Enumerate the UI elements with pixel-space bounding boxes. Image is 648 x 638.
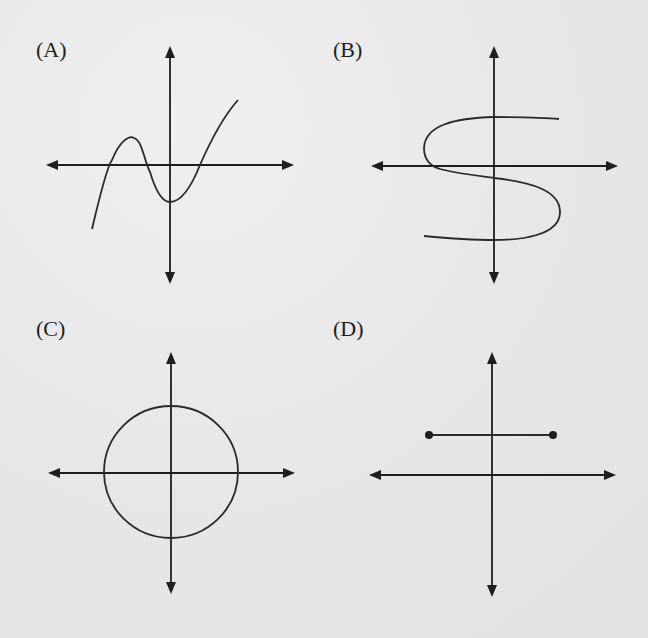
arrow-down-icon [487, 585, 497, 597]
arrow-left-icon [369, 470, 381, 480]
graph-d [369, 352, 616, 597]
closed-endpoint-icon [549, 431, 557, 439]
graph-b-curve [424, 117, 560, 240]
arrow-up-icon [489, 46, 499, 58]
arrow-down-icon [166, 582, 176, 594]
arrow-up-icon [166, 352, 176, 364]
arrow-left-icon [46, 160, 58, 170]
arrow-left-icon [371, 161, 383, 171]
arrow-right-icon [606, 161, 618, 171]
graph-c [48, 352, 295, 594]
graph-choices-figure: (A) (B) (C) (D) [0, 0, 648, 638]
graph-a-axes [46, 46, 294, 284]
arrow-up-icon [487, 352, 497, 364]
arrow-down-icon [489, 272, 499, 284]
graph-c-axes [48, 352, 295, 594]
graph-a [46, 46, 294, 284]
arrow-down-icon [165, 272, 175, 284]
graph-b-axes [371, 46, 618, 284]
graph-d-axes [369, 352, 616, 597]
arrow-left-icon [48, 468, 60, 478]
graph-b [371, 46, 618, 284]
arrow-right-icon [604, 470, 616, 480]
arrow-right-icon [282, 160, 294, 170]
closed-endpoint-icon [425, 431, 433, 439]
arrow-up-icon [165, 46, 175, 58]
arrow-right-icon [283, 468, 295, 478]
